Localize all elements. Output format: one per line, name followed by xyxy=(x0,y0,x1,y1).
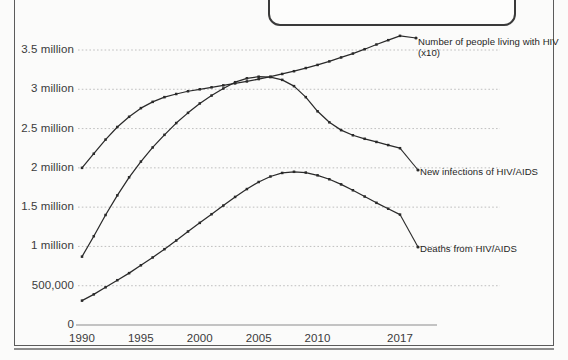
data-point-marker xyxy=(128,272,131,275)
data-point-marker xyxy=(104,138,107,141)
data-point-marker xyxy=(305,67,308,70)
data-point-marker xyxy=(175,93,178,96)
data-point-marker xyxy=(163,248,166,251)
data-point-marker xyxy=(210,86,213,89)
data-point-marker xyxy=(246,188,249,191)
data-point-marker xyxy=(116,279,119,282)
data-point-marker xyxy=(163,96,166,99)
data-point-marker xyxy=(163,134,166,137)
data-point-marker xyxy=(375,43,378,46)
data-point-marker xyxy=(257,78,260,81)
data-point-marker xyxy=(375,141,378,144)
data-point-marker xyxy=(199,88,202,91)
data-point-marker xyxy=(140,160,143,163)
leader-line-2 xyxy=(400,215,418,247)
data-point-marker xyxy=(116,194,119,197)
data-point-marker xyxy=(199,222,202,225)
data-point-marker xyxy=(269,175,272,178)
y-tick-label: 1 million xyxy=(31,239,74,251)
series-line-1 xyxy=(82,77,400,257)
y-tick-label: 2 million xyxy=(31,161,74,173)
leader-line-0 xyxy=(400,36,416,38)
data-point-marker xyxy=(93,235,96,238)
data-point-marker xyxy=(352,52,355,55)
data-point-marker xyxy=(316,64,319,67)
data-point-marker xyxy=(175,122,178,125)
series-label-1: New infections of HIV/AIDS xyxy=(420,166,538,177)
data-point-marker xyxy=(281,79,284,82)
x-tick-label: 1995 xyxy=(111,332,171,344)
data-point-marker xyxy=(246,80,249,83)
data-point-marker xyxy=(104,286,107,289)
y-tick-label: 2.5 million xyxy=(21,122,74,134)
data-point-marker xyxy=(246,77,249,80)
data-point-marker xyxy=(93,293,96,296)
chart-plot-area: 500,0001 million1.5 million2 million2.5 … xyxy=(0,0,568,360)
leader-line-1 xyxy=(400,148,418,170)
data-point-marker xyxy=(210,213,213,216)
x-tick-label: 1990 xyxy=(52,332,112,344)
data-point-marker xyxy=(199,102,202,105)
chart-leader-lines xyxy=(400,36,420,249)
data-point-marker xyxy=(234,81,237,84)
data-point-marker xyxy=(340,56,343,59)
data-point-marker xyxy=(140,107,143,110)
data-point-marker xyxy=(387,207,390,210)
data-point-marker xyxy=(81,299,84,302)
x-tick-label: 2017 xyxy=(370,332,430,344)
data-point-marker xyxy=(387,39,390,42)
y-tick-label: 3 million xyxy=(31,82,74,94)
data-point-marker xyxy=(316,174,319,177)
data-point-marker xyxy=(375,202,378,205)
data-point-marker xyxy=(128,116,131,119)
data-point-marker xyxy=(234,196,237,199)
data-point-marker xyxy=(175,239,178,242)
data-point-marker xyxy=(316,110,319,113)
data-point-marker xyxy=(140,264,143,267)
series-label-0: Number of people living with HIV (x10) xyxy=(418,36,559,58)
data-point-marker xyxy=(340,129,343,132)
data-point-marker xyxy=(305,96,308,99)
data-point-marker xyxy=(222,84,225,87)
data-point-marker xyxy=(151,256,154,259)
data-point-marker xyxy=(281,172,284,175)
data-point-marker xyxy=(128,176,131,179)
data-point-marker xyxy=(257,75,260,78)
data-point-marker xyxy=(281,73,284,76)
y-tick-label: 3.5 million xyxy=(21,43,74,55)
data-point-marker xyxy=(363,195,366,198)
series-line-0 xyxy=(82,36,400,168)
data-point-marker xyxy=(222,204,225,207)
data-point-marker xyxy=(352,189,355,192)
data-point-marker xyxy=(328,60,331,63)
data-point-marker xyxy=(104,214,107,217)
scanned-page: zant of risky behaviors that can expose … xyxy=(0,0,568,360)
data-point-marker xyxy=(293,171,296,174)
x-tick-label: 2000 xyxy=(170,332,230,344)
data-point-marker xyxy=(187,112,190,115)
data-point-marker xyxy=(116,126,119,129)
data-point-marker xyxy=(363,138,366,141)
data-point-marker xyxy=(257,181,260,184)
data-point-marker xyxy=(328,121,331,124)
data-point-marker xyxy=(151,101,154,104)
data-point-marker xyxy=(387,144,390,147)
data-point-marker xyxy=(187,90,190,93)
x-tick-label: 2010 xyxy=(288,332,348,344)
data-point-marker xyxy=(187,230,190,233)
data-point-marker xyxy=(81,255,84,258)
y-tick-label: 1.5 million xyxy=(21,200,74,212)
data-point-marker xyxy=(352,134,355,137)
series-label-2: Deaths from HIV/AIDS xyxy=(420,243,517,254)
y-tick-label: 500,000 xyxy=(32,279,74,291)
data-point-marker xyxy=(305,171,308,174)
data-point-marker xyxy=(151,146,154,149)
data-point-marker xyxy=(210,94,213,97)
y-tick-label-zero: 0 xyxy=(68,318,75,330)
data-point-marker xyxy=(363,48,366,51)
x-tick-label: 2005 xyxy=(229,332,289,344)
data-point-marker xyxy=(293,85,296,88)
data-point-marker xyxy=(81,167,84,170)
data-point-marker xyxy=(269,76,272,79)
data-point-marker xyxy=(222,87,225,90)
